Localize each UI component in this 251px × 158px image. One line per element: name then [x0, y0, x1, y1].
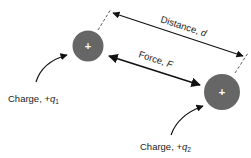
pointer-arrow-q2 [171, 106, 203, 135]
distance-label: Distance, d [159, 13, 208, 38]
charge-q1-sign: + [85, 40, 91, 52]
charge-q1-label: Charge, +q1 [8, 93, 59, 105]
charge-q2-sign: + [219, 86, 225, 98]
charge-q2-label: Charge, +q2 [140, 141, 191, 153]
charge-q1: + [73, 31, 104, 62]
charge-q2: + [204, 74, 240, 110]
pointer-arrow-q1 [36, 55, 67, 82]
coulomb-diagram: Distance, d Force, F + + Charge, +q1 Cha… [0, 0, 251, 158]
distance-extension-line-1 [98, 9, 111, 30]
